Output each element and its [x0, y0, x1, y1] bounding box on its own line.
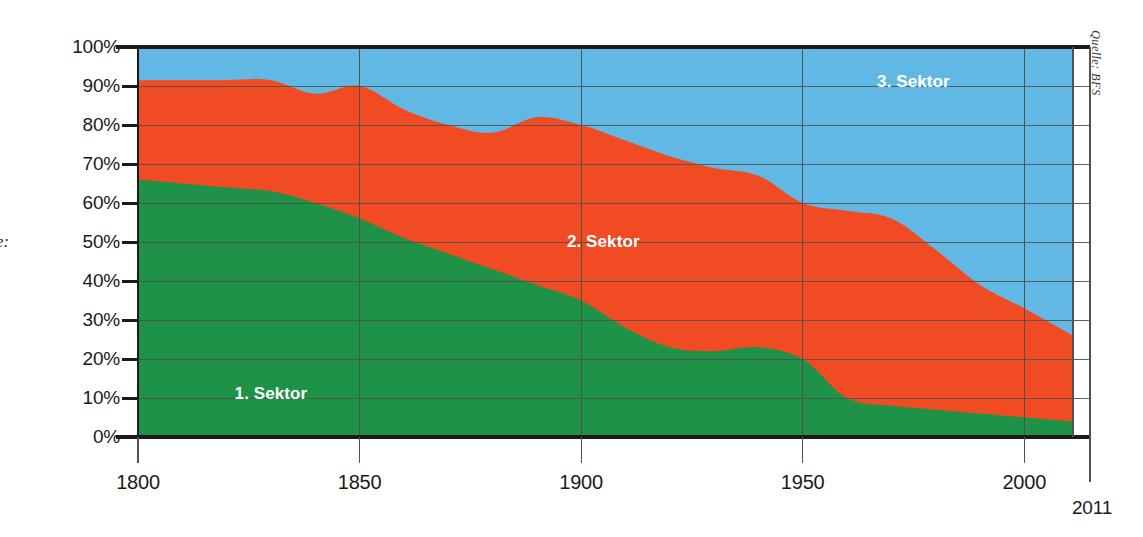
percent-stacked-area-chart: ge: Quelle: BFS 0%10%20%30%40%50%60%70%8… — [0, 0, 1143, 537]
source-note: Quelle: BFS — [1088, 30, 1103, 150]
x-axis-tick-label: 1850 — [338, 471, 382, 494]
series-label-1: 1. Sektor — [235, 384, 308, 404]
x-axis-tick-label: 1900 — [559, 471, 603, 494]
y-axis-tick-label: 20% — [10, 348, 120, 370]
y-axis-tick-labels: 0%10%20%30%40%50%60%70%80%90%100% — [0, 0, 120, 537]
y-axis-tick-label: 10% — [10, 387, 120, 409]
y-axis-tick-label: 60% — [10, 192, 120, 214]
plot-area — [0, 0, 1143, 537]
series-label-3: 3. Sektor — [877, 72, 950, 92]
x-axis-tick-label: 1800 — [116, 471, 160, 494]
y-axis-tick-label: 40% — [10, 270, 120, 292]
x-axis-tick-label: 1950 — [781, 471, 825, 494]
y-axis-tick-label: 100% — [10, 36, 120, 58]
y-axis-tick-label: 80% — [10, 114, 120, 136]
x-axis-tick-label: 2000 — [1002, 471, 1046, 494]
y-axis-tick-label: 30% — [10, 309, 120, 331]
y-axis-tick-label: 0% — [10, 426, 120, 448]
y-axis-tick-label: 70% — [10, 153, 120, 175]
y-axis-tick-label: 50% — [10, 231, 120, 253]
x-axis-end-label: 2011 — [1072, 497, 1112, 519]
y-axis-tick-label: 90% — [10, 75, 120, 97]
series-label-2: 2. Sektor — [567, 232, 640, 252]
